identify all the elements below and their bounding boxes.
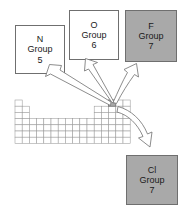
arrow-to-cl-icon	[117, 107, 152, 148]
diagram-canvas: N Group 5 O Group 6 F Group 7 Cl Group 7	[0, 0, 182, 210]
callout-arrows	[0, 0, 182, 210]
arrow-to-f-icon	[113, 64, 139, 104]
